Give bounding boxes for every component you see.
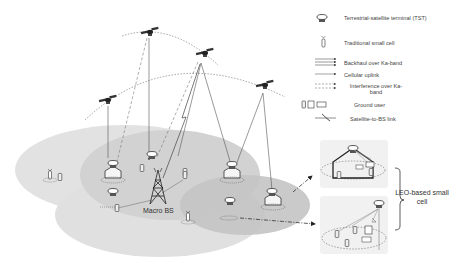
ground-user-icon (115, 205, 119, 212)
leo-satellite-icon (196, 48, 214, 57)
ground-user-icon (58, 174, 62, 181)
legend-item-ground-user: Ground user (300, 102, 464, 116)
legend-label: Traditional small cell (344, 40, 464, 46)
leo-small-cell-panel-top (320, 140, 388, 188)
orbit-arcs (85, 32, 285, 120)
legend-label: Backhaul over Ka-band (344, 60, 464, 66)
legend-item-sat-bs-link: Satellite-to-BS link (300, 116, 464, 130)
leo-small-cell-label: LEO-based small cell (392, 188, 452, 206)
legend-label: Ground user (354, 102, 464, 108)
satellites (99, 27, 274, 104)
legend-label: Satellite-to-BS link (350, 116, 464, 122)
legend-item-interference: Interference over Ka-band (300, 83, 464, 97)
ground-user-icon (183, 172, 187, 179)
ground-user-icon (140, 165, 144, 172)
legend-label: Terrestrial-satellite terminal (TST) (344, 15, 464, 21)
legend: Terrestrial-satellite terminal (TST) Tra… (300, 0, 464, 140)
legend-label: Interference over Ka-band (344, 83, 408, 96)
leo-satellite-icon (141, 27, 159, 36)
legend-item-tst: Terrestrial-satellite terminal (TST) (300, 15, 464, 29)
leo-small-cell-panel-bottom (320, 196, 388, 254)
leo-satellite-icon (256, 80, 274, 89)
legend-label: Cellular uplink (344, 72, 464, 78)
macro-bs-label: Macro BS (143, 207, 174, 215)
legend-item-small-cell: Traditional small cell (300, 40, 464, 54)
leo-satellite-icon (99, 95, 117, 104)
